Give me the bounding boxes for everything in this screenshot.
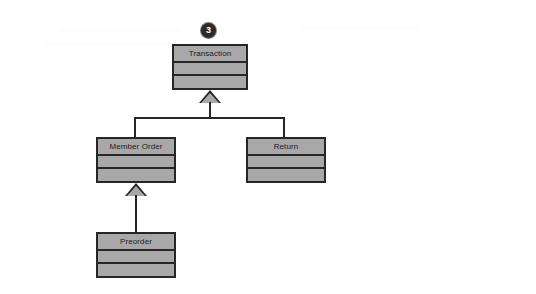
uml-operations-compartment-member-order: [98, 169, 174, 181]
uml-class-member-order[interactable]: Member Order: [96, 137, 176, 183]
step-number-badge: 3: [201, 23, 216, 38]
uml-class-preorder[interactable]: Preorder: [96, 232, 176, 278]
uml-operations-compartment-preorder: [98, 264, 174, 276]
uml-class-name-return: Return: [248, 139, 324, 156]
scan-artifact: [60, 28, 180, 33]
uml-class-diagram-canvas: 3 Transaction Member Order Return Preord…: [0, 0, 536, 294]
uml-attributes-compartment-preorder: [98, 251, 174, 264]
uml-operations-compartment-transaction: [174, 76, 246, 88]
uml-class-name-member-order: Member Order: [98, 139, 174, 156]
uml-operations-compartment-return: [248, 169, 324, 181]
uml-attributes-compartment-return: [248, 156, 324, 169]
generalization-branch-return: [283, 117, 285, 138]
uml-class-transaction[interactable]: Transaction: [172, 44, 248, 90]
uml-class-name-transaction: Transaction: [174, 46, 246, 63]
uml-class-return[interactable]: Return: [246, 137, 326, 183]
scan-artifact: [300, 25, 420, 30]
generalization-branch-member-order: [134, 117, 136, 138]
uml-class-name-preorder: Preorder: [98, 234, 174, 251]
uml-attributes-compartment-member-order: [98, 156, 174, 169]
generalization-stem-preorder: [135, 195, 137, 232]
generalization-split-bar: [134, 117, 285, 119]
uml-attributes-compartment-transaction: [174, 63, 246, 76]
